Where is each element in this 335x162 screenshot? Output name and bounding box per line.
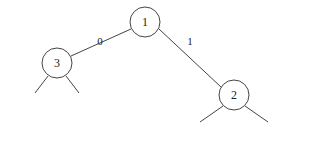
node-2: 2 <box>219 80 249 110</box>
binary-tree-definitive: 0 1 1 3 2 <box>0 0 335 162</box>
edge-3-to-0011 <box>66 76 79 93</box>
edge-3-to-0001 <box>35 76 48 93</box>
node-1-label: 1 <box>142 15 148 29</box>
node-3-label: 3 <box>54 56 60 70</box>
node-1: 1 <box>130 7 160 37</box>
edge-2-to-4right <box>245 106 268 122</box>
edge-label-1: 1 <box>187 35 193 47</box>
edge-2-to-4left <box>200 106 223 122</box>
node-2-label: 2 <box>231 88 237 102</box>
node-3: 3 <box>42 48 72 78</box>
edge-label-0: 0 <box>97 35 103 47</box>
